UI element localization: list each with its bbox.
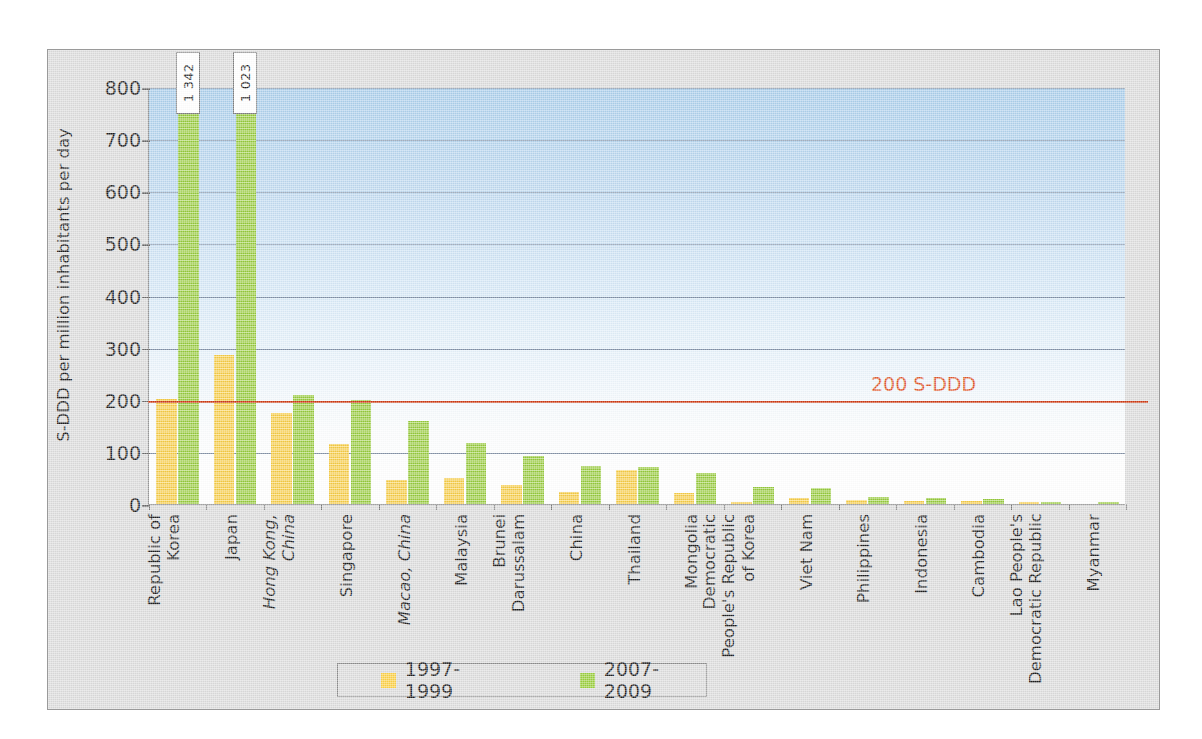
y-tick-mark-600 [142, 192, 150, 194]
bar [351, 400, 372, 504]
y-tick-mark-100 [142, 453, 150, 455]
y-tick-label-0: 0 [87, 496, 141, 515]
bar [674, 493, 695, 504]
x-axis-label-line: People's Republic [720, 514, 739, 684]
y-tick-label-100: 100 [87, 443, 141, 462]
bar [731, 502, 752, 504]
x-axis-label: Indonesia [912, 514, 931, 684]
bar-group [1019, 88, 1062, 504]
y-axis-title-text: S-DDD per million inhabitants per day [54, 128, 73, 442]
bar [616, 470, 637, 504]
y-tick-mark-700 [142, 140, 150, 142]
bar [444, 478, 465, 504]
x-axis-label-line: Indonesia [912, 514, 931, 684]
x-axis-label-line: China [279, 514, 298, 684]
x-axis-label: Japan [222, 514, 241, 684]
x-axis-label-line: of Korea [739, 514, 758, 684]
x-axis-label: Singapore [337, 514, 356, 684]
x-axis-label: Lao People'sDemocratic Republic [1007, 514, 1046, 684]
x-axis-label-line: Singapore [337, 514, 356, 684]
data-label-text: 1 023 [238, 64, 253, 103]
y-tick-mark-800 [142, 88, 150, 90]
bar-group [156, 88, 199, 504]
bar [214, 355, 235, 504]
legend-item: 1997-1999 [381, 658, 507, 702]
y-tick-label-600: 600 [87, 183, 141, 202]
bar [811, 488, 832, 504]
bar [1041, 502, 1062, 504]
x-axis-label-line: Democratic Republic [1026, 514, 1045, 684]
legend-item: 2007-2009 [580, 658, 706, 702]
bar-group [1076, 88, 1119, 504]
plot-area [148, 88, 1125, 505]
x-axis-label: Hong Kong,China [260, 514, 299, 684]
bar [638, 467, 659, 504]
legend-swatch [381, 673, 396, 688]
chart-page: S-DDD per million inhabitants per day 01… [0, 0, 1202, 739]
bar [904, 501, 925, 504]
bar [961, 501, 982, 504]
bar [523, 456, 544, 504]
x-axis-label: Cambodia [969, 514, 988, 684]
bar-group [559, 88, 602, 504]
bar-group [904, 88, 947, 504]
x-axis-label-line: Philippines [854, 514, 873, 684]
bar [156, 399, 177, 504]
x-axis-label-line: Myanmar [1084, 514, 1103, 684]
y-tick-mark-300 [142, 349, 150, 351]
bar [926, 498, 947, 504]
reference-line-label: 200 S-DDD [871, 373, 976, 395]
bar [501, 485, 522, 504]
bar [846, 500, 867, 504]
y-tick-label-200: 200 [87, 391, 141, 410]
bar [983, 499, 1004, 504]
data-label-callout: 1 342 [176, 52, 200, 114]
bar [271, 413, 292, 504]
bar-group [329, 88, 372, 504]
bar-group [386, 88, 429, 504]
y-tick-label-500: 500 [87, 235, 141, 254]
x-axis-label-line: Republic of [145, 514, 164, 684]
x-axis-label-line: Hong Kong, [260, 514, 279, 684]
bar-group [616, 88, 659, 504]
y-tick-mark-400 [142, 297, 150, 299]
bar [696, 473, 717, 504]
x-axis-label: Myanmar [1084, 514, 1103, 684]
x-axis-label: Viet Nam [797, 514, 816, 684]
x-axis-label: Republic ofKorea [145, 514, 184, 684]
bar [466, 443, 487, 505]
bar-group [674, 88, 717, 504]
y-tick-mark-500 [142, 244, 150, 246]
bar [1019, 502, 1040, 504]
x-axis-label-line: Japan [222, 514, 241, 684]
bar-group [961, 88, 1004, 504]
y-tick-label-700: 700 [87, 131, 141, 150]
bar [753, 487, 774, 504]
bar-group [789, 88, 832, 504]
bar-group [444, 88, 487, 504]
x-axis-label: DemocraticPeople's Republicof Korea [700, 514, 758, 684]
x-tick-mark [1126, 504, 1127, 510]
bar-group [846, 88, 889, 504]
y-tick-label-800: 800 [87, 79, 141, 98]
legend-label: 2007-2009 [604, 658, 706, 702]
bar [559, 492, 580, 504]
y-tick-label-300: 300 [87, 339, 141, 358]
x-axis-label: Philippines [854, 514, 873, 684]
x-axis-label-line: Lao People's [1007, 514, 1026, 684]
bar [178, 87, 199, 504]
bar [1098, 502, 1119, 504]
legend-label: 1997-1999 [405, 658, 507, 702]
data-label-text: 1 342 [180, 64, 195, 103]
data-label-callout: 1 023 [233, 52, 257, 114]
bar [581, 466, 602, 504]
reference-line-200-sddd [148, 401, 1148, 403]
bar [789, 498, 810, 504]
bar [329, 444, 350, 504]
bar [868, 497, 889, 504]
bar [293, 395, 314, 504]
x-axis-label-line: Korea [164, 514, 183, 684]
x-axis-label-line: Cambodia [969, 514, 988, 684]
x-axis-label-line: Viet Nam [797, 514, 816, 684]
bar-group [731, 88, 774, 504]
